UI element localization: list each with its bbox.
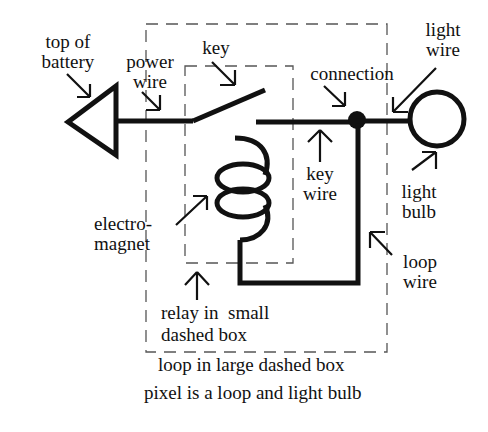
label-electromagnet: electro- magnet bbox=[94, 214, 170, 254]
arrow-loop-wire bbox=[370, 232, 392, 255]
label-loop-wire: loop wire bbox=[396, 252, 444, 292]
light-bulb-icon bbox=[410, 92, 464, 146]
electromagnet-coil-icon bbox=[217, 138, 269, 240]
arrow-power-wire bbox=[142, 92, 160, 110]
label-relay-note: relay in small dashed box bbox=[161, 302, 269, 346]
arrow-top-of-battery bbox=[67, 74, 90, 97]
key-switch bbox=[193, 90, 265, 121]
label-key: key bbox=[196, 38, 236, 58]
arrow-key-wire bbox=[308, 130, 332, 162]
label-pixel-note: pixel is a loop and light bulb bbox=[144, 382, 361, 404]
arrow-light-bulb bbox=[412, 152, 436, 170]
label-loop-note: loop in large dashed box bbox=[158, 354, 344, 376]
battery-icon bbox=[68, 86, 116, 155]
label-top-of-battery: top of battery bbox=[22, 32, 114, 72]
arrow-relay bbox=[185, 272, 209, 300]
label-connection: connection bbox=[296, 64, 408, 84]
arrow-connection bbox=[324, 86, 345, 106]
label-light-bulb: light bulb bbox=[394, 182, 444, 222]
arrow-electromagnet bbox=[176, 196, 207, 225]
label-power-wire: power wire bbox=[116, 52, 184, 92]
label-key-wire: key wire bbox=[298, 164, 342, 204]
label-light-wire: light wire bbox=[418, 20, 468, 60]
